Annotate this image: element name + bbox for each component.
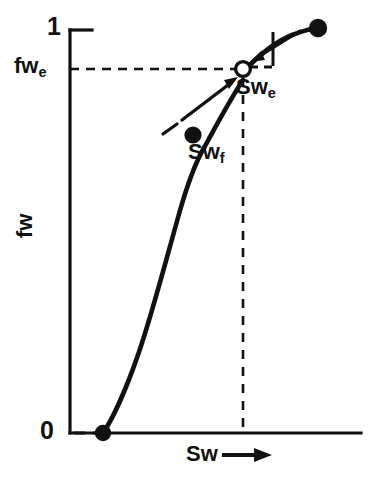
swe-subscript: e: [268, 85, 276, 101]
swf-point-label: Swf: [188, 141, 225, 166]
curve-start-point-marker: [95, 425, 111, 441]
fractional-flow-curve: [103, 80, 243, 433]
fwe-level-label: fwe: [14, 55, 47, 80]
tangent-arrow-upper: [250, 31, 300, 62]
fractional-flow-chart: 1 fwe 0 Swf Swe fw Sw: [0, 0, 385, 487]
swf-base: Sw: [188, 139, 220, 164]
swe-point-label: Swe: [236, 76, 276, 101]
sw-axis-arrow-icon: [222, 448, 272, 462]
y-axis-title: fw: [14, 214, 36, 238]
origin-label: 0: [40, 418, 54, 443]
fwe-subscript: e: [38, 64, 46, 80]
fwe-base: fw: [14, 53, 38, 78]
curve-end-point-marker: [309, 19, 327, 37]
chart-canvas: [0, 0, 385, 487]
x-axis-title: Sw: [186, 443, 218, 465]
swf-subscript: f: [220, 150, 225, 166]
y-axis-max-tick-label: 1: [47, 14, 61, 39]
swe-base: Sw: [236, 74, 268, 99]
